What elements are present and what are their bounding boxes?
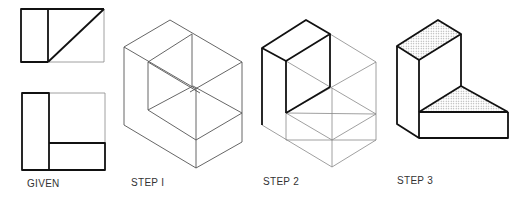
drawing-canvas: [0, 0, 531, 199]
label-step2: STEP 2: [263, 176, 299, 187]
given-front-view: [22, 93, 105, 170]
step1-construction: [124, 20, 242, 168]
given-top-view: [21, 9, 104, 62]
step3-final: [397, 20, 508, 138]
step2-construction: [262, 34, 376, 167]
step2-outline: [262, 20, 330, 125]
label-step1: STEP I: [131, 177, 164, 188]
label-step3: STEP 3: [397, 175, 433, 186]
label-given: GIVEN: [27, 178, 60, 189]
